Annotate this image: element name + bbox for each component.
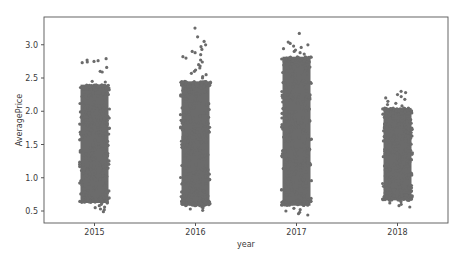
data-point	[392, 131, 395, 134]
data-point	[188, 105, 191, 108]
data-point	[84, 174, 87, 177]
data-point	[190, 179, 193, 182]
data-point	[309, 56, 312, 59]
data-point	[399, 168, 402, 171]
data-point	[206, 134, 209, 137]
data-point	[202, 166, 205, 169]
data-point	[182, 201, 185, 204]
data-point	[298, 32, 301, 35]
data-point	[86, 130, 89, 133]
data-point	[89, 88, 92, 91]
data-point	[206, 194, 209, 197]
data-point	[99, 118, 102, 121]
data-point	[200, 205, 203, 208]
data-point	[383, 123, 386, 126]
data-point	[193, 142, 196, 145]
data-point	[285, 117, 288, 120]
y-tick: 0.5	[25, 207, 44, 216]
data-point	[393, 194, 396, 197]
data-point	[181, 106, 184, 109]
data-point	[408, 205, 411, 208]
data-point	[181, 81, 184, 84]
data-point	[306, 213, 309, 216]
data-point	[295, 154, 298, 157]
data-point	[299, 102, 302, 105]
data-point	[188, 158, 191, 161]
data-point	[197, 167, 200, 170]
data-point	[301, 100, 304, 103]
data-point	[389, 175, 392, 178]
data-point	[94, 88, 97, 91]
data-point	[95, 132, 98, 135]
data-point	[90, 125, 93, 128]
data-point	[209, 81, 212, 84]
data-point	[92, 60, 95, 63]
data-point	[205, 73, 208, 76]
data-point	[291, 140, 294, 143]
data-point	[394, 147, 397, 150]
data-point	[182, 137, 185, 140]
data-point	[300, 146, 303, 149]
data-point	[192, 186, 195, 189]
data-point	[396, 189, 399, 192]
data-point	[296, 55, 299, 58]
data-point	[185, 204, 188, 207]
data-point	[386, 111, 389, 114]
data-point	[285, 193, 288, 196]
data-point	[288, 126, 291, 129]
data-point	[93, 100, 96, 103]
data-point	[79, 131, 82, 134]
data-point	[105, 190, 108, 193]
data-point	[100, 198, 103, 201]
data-point	[180, 164, 183, 167]
data-point	[290, 183, 293, 186]
data-point	[281, 81, 284, 84]
data-point	[400, 95, 403, 98]
data-point	[89, 107, 92, 110]
data-point	[103, 116, 106, 119]
data-point	[192, 182, 195, 185]
data-point	[287, 178, 290, 181]
data-point	[281, 202, 284, 205]
data-point	[292, 173, 295, 176]
data-point	[103, 205, 106, 208]
data-point	[103, 98, 106, 101]
data-point	[89, 115, 92, 118]
data-point	[80, 169, 83, 172]
data-point	[108, 107, 111, 110]
data-point	[400, 115, 403, 118]
data-point	[99, 178, 102, 181]
data-point	[102, 107, 105, 110]
data-point	[192, 92, 195, 95]
data-point	[93, 139, 96, 142]
data-point	[81, 166, 84, 169]
y-axis: 0.5 1.0 1.5 2.0 2.5 3.0	[25, 41, 44, 216]
data-point	[292, 122, 295, 125]
data-point	[98, 104, 101, 107]
data-point	[208, 126, 211, 129]
data-point	[105, 197, 108, 200]
data-point	[300, 174, 303, 177]
data-point	[290, 82, 293, 85]
data-point	[196, 186, 199, 189]
data-point	[92, 167, 95, 170]
data-points	[78, 27, 414, 217]
data-point	[281, 100, 284, 103]
data-point	[180, 143, 183, 146]
data-point	[291, 59, 294, 62]
data-point	[291, 85, 294, 88]
data-point	[410, 122, 413, 125]
data-point	[310, 179, 313, 182]
data-point	[182, 119, 185, 122]
data-point	[207, 178, 210, 181]
data-point	[185, 143, 188, 146]
data-point	[410, 128, 413, 131]
data-point	[91, 149, 94, 152]
data-point	[389, 107, 392, 110]
data-point	[107, 167, 110, 170]
data-point	[382, 139, 385, 142]
data-point	[289, 175, 292, 178]
data-point	[91, 80, 94, 83]
data-point	[404, 172, 407, 175]
data-point	[179, 113, 182, 116]
